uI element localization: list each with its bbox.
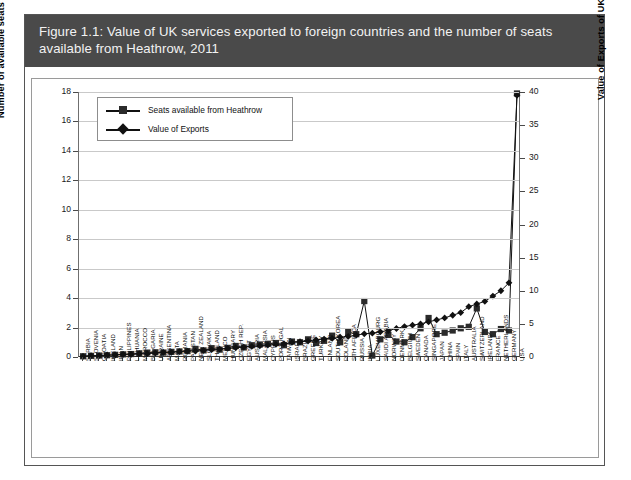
y-axis-left-tick-label: 16 xyxy=(45,116,71,125)
x-axis-label: MALAYSIA xyxy=(261,330,268,361)
x-axis-label: AUSTRIA xyxy=(253,334,260,361)
x-axis-label: EGYPT xyxy=(245,340,252,361)
x-axis-label: PHILIPPINES xyxy=(125,322,132,361)
x-axis-label: ARGENTINA xyxy=(165,325,172,361)
data-point-diamond xyxy=(433,317,440,324)
x-axis-label: GREECE xyxy=(309,335,316,361)
y-axis-right-tick-label: 35 xyxy=(529,120,555,129)
square-marker-icon xyxy=(119,106,127,114)
x-axis-label: UKRAINE xyxy=(157,333,164,361)
x-axis-label: LITHUANIA xyxy=(133,328,140,361)
y-axis-left-title: Number of available seats offered from H… xyxy=(0,0,6,118)
x-axis-label: SPAIN xyxy=(454,343,461,361)
x-axis-label: PORTUGAL xyxy=(277,327,284,361)
x-axis-label: FRANCE xyxy=(494,335,501,361)
y-axis-left-tick-label: 14 xyxy=(45,146,71,155)
y-axis-right-tick-label: 0 xyxy=(529,352,555,361)
x-axis-label: TURKEY xyxy=(317,336,324,361)
y-axis-right-tick xyxy=(520,324,525,325)
data-point-square xyxy=(442,330,448,336)
x-axis-label: MALTA xyxy=(173,341,180,361)
x-axis-label: BULGARIA xyxy=(149,329,156,361)
y-axis-left-tick xyxy=(73,92,78,93)
y-axis-left-tick xyxy=(73,298,78,299)
figure-screenshot: Figure 1.1: Value of UK services exporte… xyxy=(0,0,631,480)
y-axis-right-tick-label: 5 xyxy=(529,319,555,328)
y-axis-right-title: Value of Exports of UK services £ billio… xyxy=(596,0,606,100)
x-axis-label: SINGAPORE xyxy=(430,324,437,361)
x-axis-label: USA xyxy=(518,348,525,361)
x-axis-label: INDIA xyxy=(366,344,373,361)
data-point-diamond xyxy=(441,315,448,322)
legend-label-exports: Value of Exports xyxy=(148,124,209,134)
y-axis-right-tick xyxy=(520,158,525,159)
chart-legend: Seats available from Heathrow Value of E… xyxy=(97,97,293,141)
gridline xyxy=(79,151,519,152)
x-axis-label: GERMANY xyxy=(510,329,517,361)
y-axis-left-tick xyxy=(73,269,78,270)
y-axis-left-tick-label: 0 xyxy=(45,352,71,361)
y-axis-right-tick xyxy=(520,92,525,93)
x-axis-label: HUNGARY xyxy=(229,330,236,361)
x-axis-label: SWITZERLAND xyxy=(478,316,485,361)
gridline xyxy=(79,210,519,211)
gridline xyxy=(79,298,519,299)
x-axis-label: FINLAND xyxy=(326,334,333,361)
figure-title-banner: Figure 1.1: Value of UK services exporte… xyxy=(25,15,604,67)
x-axis-label: BELGIUM xyxy=(406,333,413,361)
x-axis-label: SLOVAKIA xyxy=(205,331,212,362)
x-axis-label: JAPAN xyxy=(438,341,445,361)
x-axis-label: CHINA xyxy=(446,342,453,361)
x-axis-label: PAKISTAN xyxy=(189,331,196,361)
data-point-diamond xyxy=(361,330,368,337)
y-axis-right-tick xyxy=(520,291,525,292)
x-axis-label: CZECH REP. xyxy=(237,324,244,361)
y-axis-left-tick xyxy=(73,357,78,358)
x-axis-label: CROATIA xyxy=(100,334,107,361)
x-axis-label: IRELAND xyxy=(486,334,493,361)
x-axis-label: SWEDEN xyxy=(414,334,421,361)
x-axis-label: IRAN xyxy=(117,346,124,361)
x-axis-label: DENMARK xyxy=(398,330,405,361)
x-axis-label: CYPRUS xyxy=(269,335,276,361)
x-axis-label: BRAZIL xyxy=(301,339,308,361)
x-axis-label: POLAND xyxy=(342,335,349,361)
x-axis-label: STH AFRICA xyxy=(350,324,357,361)
y-axis-left-tick-label: 2 xyxy=(45,323,71,332)
y-axis-right-tick-label: 15 xyxy=(529,253,555,262)
y-axis-left-tick xyxy=(73,210,78,211)
x-axis-label: SLOVENIA xyxy=(92,330,99,361)
x-axis-label: MEXICO xyxy=(221,336,228,361)
y-axis-right-tick-label: 40 xyxy=(529,87,555,96)
x-axis-label: ISRAEL xyxy=(293,339,300,361)
y-axis-right-tick xyxy=(520,258,525,259)
gridline xyxy=(79,180,519,181)
x-axis-label: NEW ZEALAND xyxy=(197,316,204,361)
y-axis-left-tick-label: 8 xyxy=(45,234,71,243)
y-axis-left-tick xyxy=(73,328,78,329)
x-axis-label: ROMANIA xyxy=(181,332,188,361)
x-axis-label: RUSSIA xyxy=(358,338,365,361)
x-axis-label: AUSTRALIA xyxy=(470,326,477,361)
x-axis-label: SAUDI ARABIA xyxy=(382,317,389,361)
diamond-marker-icon xyxy=(117,123,128,134)
y-axis-left-tick xyxy=(73,121,78,122)
y-axis-left-tick-label: 10 xyxy=(45,205,71,214)
x-axis-label: ITALY xyxy=(462,344,469,361)
x-axis-label: NORWAY xyxy=(390,334,397,361)
y-axis-left-tick-label: 18 xyxy=(45,87,71,96)
y-axis-left-tick-label: 6 xyxy=(45,264,71,273)
y-axis-right-tick-label: 25 xyxy=(529,186,555,195)
y-axis-left-tick-label: 12 xyxy=(45,175,71,184)
data-point-diamond xyxy=(449,312,456,319)
y-axis-right-tick-label: 30 xyxy=(529,153,555,162)
x-axis-label: SERBIA xyxy=(84,338,91,361)
x-axis-label: NETHERLANDS xyxy=(502,315,509,361)
page-title: Figure 1.1: Value of UK services exporte… xyxy=(39,23,590,57)
y-axis-right-tick xyxy=(520,191,525,192)
y-axis-right-tick xyxy=(520,225,525,226)
y-axis-left-tick xyxy=(73,239,78,240)
x-axis-label: LUXEMBOURG xyxy=(374,317,381,361)
gridline xyxy=(79,269,519,270)
x-axis-label: TAIWAN xyxy=(285,337,292,361)
